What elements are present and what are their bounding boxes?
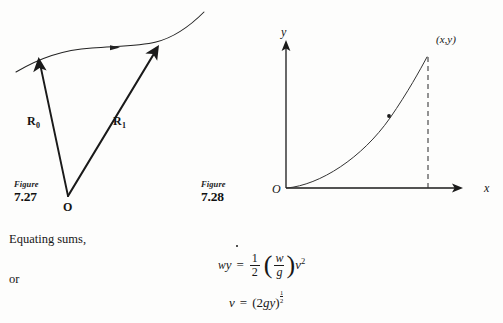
figure-7-28-caption: Figure 7.28 [201,180,226,203]
energy-eq-w: w [218,259,226,271]
energy-eq-y: y [226,257,232,273]
energy-eq-half-numerator: 1 [250,252,260,265]
velocity-eq-paren-close: ) [275,295,279,311]
figure-7-28-origin-label: O [272,182,281,197]
y-axis-label: y [281,25,286,40]
vector-r1-shaft [68,55,154,197]
energy-eq-wg-numerator: w [273,252,285,265]
vector-label-r0: R0 [27,114,40,129]
figure-7-28-graphic [250,0,503,225]
energy-eq-paren-close: ) [286,254,295,275]
prose-equating-sums: Equating sums, [9,232,86,247]
figure-7-27-origin-label: O [63,200,72,215]
velocity-eq-exponent-denominator: 2 [280,296,283,304]
vector-r0-arrowhead [33,57,46,72]
prose-or: or [9,272,19,287]
velocity-eq-relation: = [240,295,247,311]
curve-point-marker [387,114,391,118]
dot-accent-mark [236,245,238,247]
energy-eq-paren-group: ( w g ) [264,252,295,278]
energy-eq-half-denominator: 2 [250,265,260,279]
velocity-equation: v = ( 2 g y ) 1 2 [229,295,283,311]
figure-7-28-caption-word: Figure [201,180,226,189]
figure-7-27-caption-number: 7.27 [14,190,39,204]
figure-7-27-caption: Figure 7.27 [14,180,39,203]
energy-eq-wg-fraction: w g [273,252,285,278]
velocity-eq-exponent: 1 2 [280,290,283,304]
velocity-eq-v: v [229,295,235,311]
document-page: R0 R1 O Figure 7.27 y x O (x,y) Figure 7… [0,0,503,323]
figure-7-27-caption-word: Figure [14,180,39,189]
energy-eq-relation: = [236,257,243,273]
x-axis-label: x [484,181,489,196]
vector-r0-shaft [41,66,69,196]
energy-eq-half-fraction: 1 2 [250,252,260,278]
trajectory-curve [16,12,204,72]
energy-equation: w y = 1 2 ( w g ) v2 [218,252,305,278]
vector-label-r1: R1 [113,114,126,129]
coordinate-point-label: (x,y) [436,33,456,45]
energy-eq-exponent: 2 [301,256,305,266]
figure-7-28-caption-number: 7.28 [201,190,226,204]
energy-eq-paren-open: ( [264,254,273,275]
trajectory-curve [287,57,427,188]
energy-eq-wg-denominator: g [274,265,284,279]
